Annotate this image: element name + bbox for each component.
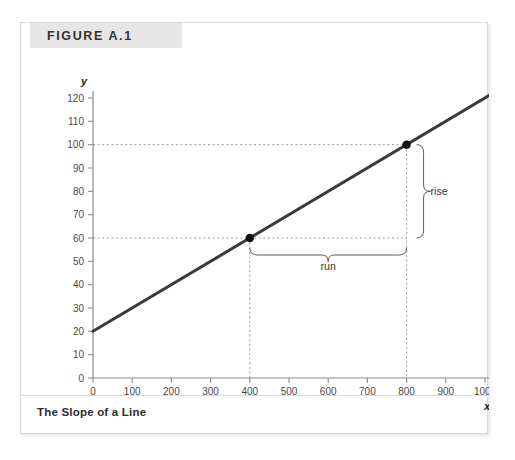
y-tick-label-50: 50 <box>73 256 85 267</box>
y-tick-label-80: 80 <box>73 186 85 197</box>
data-point-400-60 <box>246 234 254 242</box>
data-line <box>93 91 489 331</box>
y-axis-name: y <box>80 75 88 87</box>
y-tick-label-90: 90 <box>73 163 85 174</box>
annotation-braces-group: riserun <box>250 145 448 272</box>
chart-plot-area: 0102030405060708090100110120010020030040… <box>21 23 489 435</box>
x-axis-name: x <box>483 400 489 412</box>
y-tick-label-0: 0 <box>78 373 84 384</box>
brace-rise <box>417 145 431 238</box>
y-tick-label-40: 40 <box>73 279 85 290</box>
axis-names-group: yx <box>80 75 489 412</box>
axis-ticks-group <box>88 98 485 383</box>
axes-group <box>93 91 489 378</box>
y-tick-label-110: 110 <box>68 116 84 127</box>
figure-caption: The Slope of a Line <box>37 406 146 418</box>
y-tick-label-20: 20 <box>73 326 85 337</box>
y-tick-label-120: 120 <box>67 93 84 104</box>
y-tick-label-60: 60 <box>73 233 85 244</box>
y-tick-label-10: 10 <box>73 349 85 360</box>
y-tick-label-100: 100 <box>67 139 84 150</box>
caption-divider <box>21 395 487 396</box>
y-tick-label-70: 70 <box>73 209 85 220</box>
annotation-label-rise: rise <box>431 185 448 197</box>
guide-lines-group <box>93 145 407 378</box>
data-point-800-100 <box>402 140 410 148</box>
data-line-group <box>93 91 489 331</box>
y-tick-label-30: 30 <box>73 303 85 314</box>
axis-tick-labels-group: 0102030405060708090100110120010020030040… <box>67 93 489 398</box>
annotation-label-run: run <box>321 260 336 272</box>
figure-panel: FIGURE A.1 01020304050607080901001101200… <box>20 22 488 434</box>
chart-svg: 0102030405060708090100110120010020030040… <box>21 23 489 435</box>
